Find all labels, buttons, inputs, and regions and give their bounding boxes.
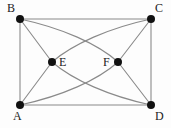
vertex-a <box>16 101 24 109</box>
vertex-c <box>147 15 155 23</box>
graph-canvas <box>0 0 171 128</box>
edge-layer <box>20 19 151 105</box>
vertex-f <box>114 58 122 66</box>
vertex-e <box>48 58 56 66</box>
vertex-label-e: E <box>59 56 66 68</box>
vertex-b <box>16 15 24 23</box>
vertex-d <box>147 101 155 109</box>
vertex-layer <box>16 15 155 109</box>
vertex-label-c: C <box>155 2 163 14</box>
edge-c-f <box>118 19 151 62</box>
edge-c-e <box>52 19 151 62</box>
vertex-label-b: B <box>7 2 15 14</box>
graph-diagram: A B C D E F <box>0 0 171 128</box>
vertex-label-a: A <box>13 110 22 122</box>
edge-d-f <box>118 62 151 105</box>
edge-d-e <box>52 62 151 105</box>
vertex-label-d: D <box>155 110 164 122</box>
vertex-label-f: F <box>103 56 110 68</box>
